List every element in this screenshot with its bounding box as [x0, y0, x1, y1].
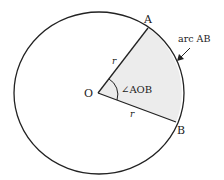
- circle-sector-diagram: A B O r r ∠AOB arc AB: [0, 0, 224, 180]
- label-point-a: A: [143, 13, 153, 26]
- label-center-o: O: [84, 87, 93, 100]
- label-radius-lower: r: [130, 109, 135, 119]
- label-arc-ab: arc AB: [178, 33, 210, 44]
- label-radius-upper: r: [112, 56, 117, 66]
- diagram-canvas: A B O r r ∠AOB arc AB: [0, 0, 224, 180]
- label-point-b: B: [177, 124, 185, 137]
- label-angle-aob: ∠AOB: [121, 84, 152, 95]
